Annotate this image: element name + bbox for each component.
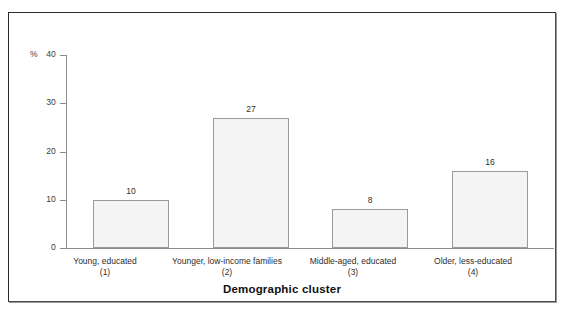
bar-value-1: 10 bbox=[126, 186, 135, 196]
y-tick-label-10: 10 bbox=[46, 194, 56, 204]
plot-area: 10 27 8 16 bbox=[66, 55, 554, 248]
y-tick-label-30: 30 bbox=[46, 97, 56, 107]
y-tick-label-20: 20 bbox=[46, 146, 56, 156]
bar-4: 16 bbox=[452, 171, 528, 248]
y-axis-unit-label: % bbox=[30, 49, 38, 59]
bar-value-2: 27 bbox=[246, 104, 255, 114]
category-name-1: Young, educated bbox=[73, 256, 137, 266]
bar-2: 27 bbox=[213, 118, 289, 248]
category-label-4: Older, less-educated (4) bbox=[403, 256, 543, 278]
category-index-4: (4) bbox=[403, 267, 543, 278]
category-name-4: Older, less-educated bbox=[434, 256, 512, 266]
y-tick-label-40: 40 bbox=[46, 49, 56, 59]
category-name-3: Middle-aged, educated bbox=[310, 256, 396, 266]
bar-1: 10 bbox=[93, 200, 169, 248]
x-axis-line bbox=[66, 248, 554, 249]
y-tick-label-0: 0 bbox=[51, 242, 56, 252]
bar-value-3: 8 bbox=[368, 195, 373, 205]
figure-frame: % 40 30 20 10 0 10 27 8 16 Young, educat… bbox=[8, 12, 556, 302]
x-axis-title: Demographic cluster bbox=[9, 283, 555, 295]
bar-3: 8 bbox=[332, 209, 408, 248]
category-name-2: Younger, low-income families bbox=[172, 256, 282, 266]
bar-value-4: 16 bbox=[485, 157, 494, 167]
y-tick-0: 0 bbox=[60, 248, 66, 249]
